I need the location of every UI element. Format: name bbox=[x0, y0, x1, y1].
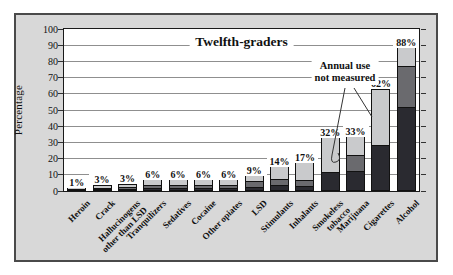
bar-value-label: 14% bbox=[267, 156, 293, 167]
y-tick-label: 40 bbox=[26, 121, 58, 132]
bar-group bbox=[194, 179, 213, 191]
x-category-label: Alcohol bbox=[393, 198, 421, 226]
gridline bbox=[64, 110, 419, 111]
x-category-label: Heroin bbox=[66, 198, 92, 224]
y-tick-label: 10 bbox=[26, 169, 58, 180]
y-tick-label: 30 bbox=[26, 137, 58, 148]
bar-value-label: 6% bbox=[165, 169, 191, 180]
y-axis-title: Percentage bbox=[12, 85, 24, 135]
bar-value-label: 88% bbox=[393, 37, 419, 48]
y-tick bbox=[58, 126, 63, 127]
bar-segment-thirty-day bbox=[296, 186, 313, 190]
bar-value-label: 32% bbox=[317, 127, 343, 138]
bar-segment-thirty-day bbox=[220, 188, 237, 190]
y-tick bbox=[58, 110, 63, 111]
y-tick bbox=[421, 191, 426, 192]
bar-group bbox=[346, 136, 365, 191]
y-tick bbox=[421, 126, 426, 127]
bar-segment-thirty-day bbox=[195, 188, 212, 190]
bar-group bbox=[270, 166, 289, 191]
bar-segment-thirty-day bbox=[170, 188, 187, 190]
gridline bbox=[64, 93, 419, 94]
y-tick bbox=[421, 158, 426, 159]
bar-group bbox=[93, 185, 112, 191]
y-tick bbox=[421, 110, 426, 111]
bar-group bbox=[118, 184, 137, 191]
bar-segment-thirty-day bbox=[322, 172, 339, 190]
y-tick bbox=[58, 174, 63, 175]
y-tick bbox=[421, 93, 426, 94]
bar-value-label: 17% bbox=[292, 152, 318, 163]
bar-segment-thirty-day bbox=[94, 189, 111, 190]
bar-group bbox=[67, 187, 86, 191]
bar-group bbox=[295, 162, 314, 191]
y-tick bbox=[421, 61, 426, 62]
bar-group bbox=[397, 47, 416, 191]
bar-group bbox=[169, 179, 188, 191]
y-tick bbox=[58, 77, 63, 78]
bar-value-label: 3% bbox=[114, 173, 140, 184]
y-tick-label: 90 bbox=[26, 40, 58, 51]
y-tick-label: 100 bbox=[26, 24, 58, 35]
bar-group bbox=[219, 179, 238, 191]
bar-group bbox=[371, 89, 390, 191]
bar-value-label: 33% bbox=[343, 126, 369, 137]
y-tick-label: 50 bbox=[26, 105, 58, 116]
bar-segment-thirty-day bbox=[68, 189, 85, 190]
y-tick bbox=[58, 61, 63, 62]
bar-segment-thirty-day bbox=[246, 187, 263, 190]
chart-title: Twelfth-graders bbox=[189, 34, 294, 50]
y-tick bbox=[58, 191, 63, 192]
y-tick bbox=[58, 142, 63, 143]
bar-group bbox=[143, 179, 162, 191]
annotation-annual-use: Annual use not measured bbox=[312, 60, 379, 85]
bar-segment-thirty-day bbox=[144, 188, 161, 190]
bar-segment-thirty-day bbox=[398, 107, 415, 190]
y-tick-label: 20 bbox=[26, 153, 58, 164]
y-tick bbox=[58, 158, 63, 159]
bar-value-label: 6% bbox=[190, 169, 216, 180]
y-tick bbox=[421, 77, 426, 78]
y-tick bbox=[421, 29, 426, 30]
bar-value-label: 6% bbox=[216, 169, 242, 180]
bar-group bbox=[321, 137, 340, 191]
y-tick bbox=[421, 174, 426, 175]
bar-segment-thirty-day bbox=[271, 185, 288, 190]
y-tick-label: 60 bbox=[26, 88, 58, 99]
y-tick bbox=[421, 45, 426, 46]
plot-area: Percentage 0102030405060708090100 1%3%3%… bbox=[63, 28, 420, 192]
gridline bbox=[64, 158, 419, 159]
x-category-label: LSD bbox=[250, 198, 270, 218]
gridline bbox=[64, 142, 419, 143]
bar-value-label: 3% bbox=[89, 174, 115, 185]
y-tick bbox=[58, 93, 63, 94]
bar-value-label: 1% bbox=[64, 177, 90, 188]
chart-figure: Percentage 0102030405060708090100 1%3%3%… bbox=[14, 13, 438, 262]
bar-value-label: 9% bbox=[241, 165, 267, 176]
y-tick bbox=[421, 142, 426, 143]
bar-segment-thirty-day bbox=[372, 145, 389, 190]
y-tick-label: 70 bbox=[26, 72, 58, 83]
bar-segment-thirty-day bbox=[347, 171, 364, 190]
bar-group bbox=[245, 175, 264, 191]
y-tick-label: 80 bbox=[26, 56, 58, 67]
y-tick bbox=[58, 29, 63, 30]
bar-value-label: 6% bbox=[140, 169, 166, 180]
y-tick bbox=[58, 45, 63, 46]
bar-segment-thirty-day bbox=[119, 189, 136, 190]
y-tick-label: 0 bbox=[26, 186, 58, 197]
